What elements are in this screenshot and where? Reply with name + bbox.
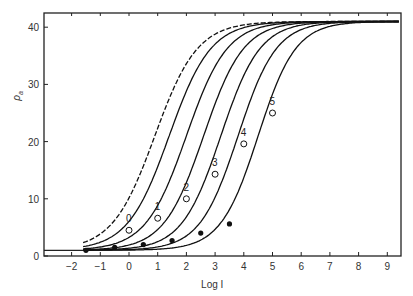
y-tick-label: 10 — [28, 194, 40, 205]
y-axis-title: ρa — [11, 91, 24, 102]
x-tick-label: −2 — [66, 261, 78, 272]
curve-label: 2 — [183, 182, 189, 193]
open-circle-marker — [155, 215, 161, 221]
x-tick-label: 4 — [241, 261, 247, 272]
open-circle-marker — [183, 196, 189, 202]
x-tick-label: 9 — [385, 261, 391, 272]
open-circle-marker — [212, 171, 218, 177]
y-tick-label: 20 — [28, 137, 40, 148]
y-tick-label: 40 — [28, 22, 40, 33]
curve-label: 4 — [241, 127, 247, 138]
x-tick-label: 8 — [356, 261, 362, 272]
chart: −2−10123456789Log I010203040ρa012345 — [0, 0, 413, 296]
open-circle-marker — [126, 227, 132, 233]
x-tick-label: 7 — [327, 261, 333, 272]
filled-marker — [198, 231, 203, 236]
x-tick-label: 2 — [184, 261, 190, 272]
x-tick-label: 6 — [298, 261, 304, 272]
y-tick-label: 30 — [28, 79, 40, 90]
filled-marker — [169, 238, 174, 243]
filled-marker — [227, 221, 232, 226]
filled-marker — [112, 245, 117, 250]
labeled-points: 012345 — [126, 96, 276, 233]
curve-label: 3 — [212, 157, 218, 168]
x-tick-label: 1 — [155, 261, 161, 272]
x-tick-label: 5 — [270, 261, 276, 272]
x-axis: −2−10123456789 — [66, 13, 391, 272]
x-tick-label: −1 — [95, 261, 107, 272]
filled-marker — [83, 248, 88, 253]
x-tick-label: 3 — [212, 261, 218, 272]
y-tick-label: 0 — [33, 251, 39, 262]
x-tick-label: 0 — [126, 261, 132, 272]
filled-marker — [141, 242, 146, 247]
open-circle-marker — [241, 141, 247, 147]
y-axis: 010203040 — [28, 22, 48, 262]
curve-label: 0 — [126, 213, 132, 224]
open-circle-marker — [270, 110, 276, 116]
x-axis-title: Log I — [201, 279, 223, 290]
curve-label: 1 — [155, 201, 161, 212]
curve-label: 5 — [270, 96, 276, 107]
